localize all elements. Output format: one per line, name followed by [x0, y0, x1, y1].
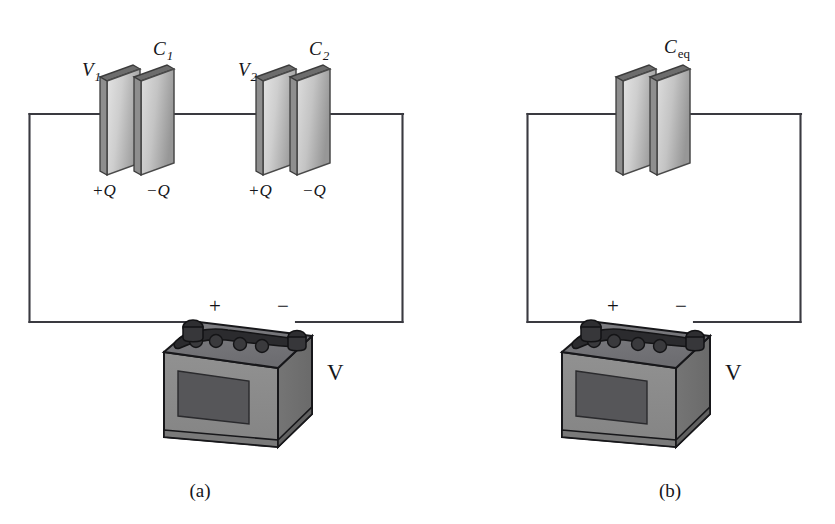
- capacitor-ceq-plate-negative: [650, 65, 690, 175]
- terminal-post-body: [183, 327, 203, 342]
- terminal-post-body: [288, 337, 306, 351]
- battery-negative-sign: −: [675, 294, 687, 318]
- plate-side-edge: [100, 77, 107, 175]
- cell-cap: [608, 335, 621, 348]
- plate-side-edge: [616, 77, 623, 175]
- battery-positive-sign: +: [209, 294, 221, 318]
- capacitor-circuit-figure: V1 C1 +Q −Q V2 C2: [0, 0, 835, 524]
- plate-side-edge: [290, 77, 297, 175]
- plate-side-edge: [650, 77, 657, 175]
- plate-face: [297, 69, 330, 175]
- cell-cap: [234, 338, 247, 351]
- capacitor-c1-plate-negative: [134, 65, 174, 175]
- battery-label-panel: [178, 371, 249, 424]
- capacitor-c2-positive-charge: +Q: [248, 181, 272, 200]
- battery-negative-terminal: [686, 331, 704, 351]
- capacitor-c1-positive-charge: +Q: [92, 181, 116, 200]
- battery-voltage-label: V: [725, 360, 742, 385]
- battery-positive-sign: +: [607, 294, 619, 318]
- battery-voltage-label: V: [327, 360, 344, 385]
- cell-cap: [256, 340, 269, 353]
- battery-negative-sign: −: [277, 294, 289, 318]
- plate-side-edge: [256, 77, 263, 175]
- plate-face: [657, 69, 690, 175]
- battery-label-panel: [576, 371, 647, 424]
- panel-a-caption: (a): [189, 480, 210, 502]
- capacitor-c2-negative-charge: −Q: [302, 181, 326, 200]
- terminal-post-body: [686, 337, 704, 351]
- capacitor-c2-plate-negative: [290, 65, 330, 175]
- cell-cap: [210, 335, 223, 348]
- terminal-post-body: [581, 327, 601, 342]
- panel-b-caption: (b): [659, 480, 681, 502]
- capacitor-c1-negative-charge: −Q: [146, 181, 170, 200]
- plate-face: [141, 69, 174, 175]
- battery-negative-terminal: [288, 331, 306, 351]
- plate-side-edge: [134, 77, 141, 175]
- cell-cap: [632, 338, 645, 351]
- battery-positive-terminal: [183, 320, 203, 342]
- cell-cap: [654, 340, 667, 353]
- battery-positive-terminal: [581, 320, 601, 342]
